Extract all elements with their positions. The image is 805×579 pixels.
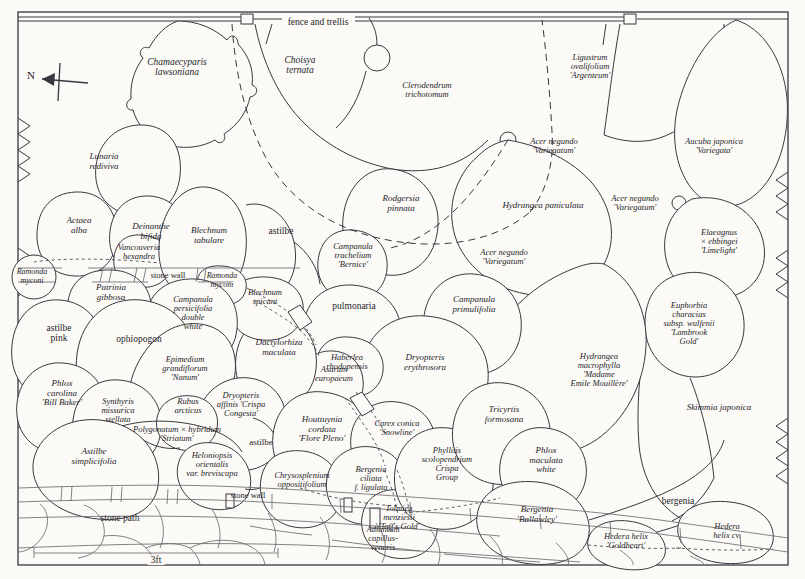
north-arrow — [42, 63, 88, 101]
plan-linework: .s { fill:none; stroke:#3a3740; stroke-w… — [0, 0, 805, 579]
canopy-aucuba — [675, 20, 788, 206]
tree-marker-clerodendrum — [364, 45, 390, 71]
boundary-zigzag-right — [776, 172, 788, 484]
garden-planting-plan: .s { fill:none; stroke:#3a3740; stroke-w… — [0, 0, 805, 579]
scale-bar — [34, 548, 278, 558]
canopy-euphorbia — [645, 272, 744, 377]
adiantum-marker — [370, 508, 380, 528]
fence-and-trellis-line — [18, 14, 788, 45]
